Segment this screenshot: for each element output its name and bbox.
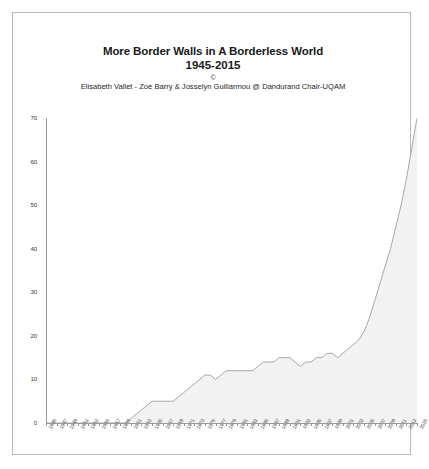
x-axis-tick-mark: [194, 423, 195, 426]
area-series-fill: [46, 118, 417, 423]
x-axis-tick-mark: [300, 423, 301, 426]
x-axis-tick-mark: [216, 423, 217, 426]
x-axis-tick-mark: [67, 423, 68, 426]
x-axis-tick-mark: [258, 423, 259, 426]
x-axis-tick-mark: [353, 423, 354, 426]
x-axis-tick-mark: [269, 423, 270, 426]
x-axis-tick-mark: [364, 423, 365, 426]
x-axis-tick-label: 2015: [418, 418, 429, 430]
area-chart-svg: [46, 118, 417, 423]
x-axis-tick-mark: [46, 423, 47, 426]
x-axis-tick-mark: [322, 423, 323, 426]
chart-subtitle: 1945-2015: [33, 59, 393, 73]
y-axis-tick-label: 50: [15, 201, 37, 208]
x-axis-tick-mark: [226, 423, 227, 426]
x-axis-tick-mark: [375, 423, 376, 426]
y-axis-tick-label: 20: [15, 332, 37, 339]
x-axis-tick-mark: [131, 423, 132, 426]
page-title: More Border Walls in A Borderless World: [33, 45, 393, 59]
y-axis-tick-label: 70: [15, 114, 37, 121]
x-axis-tick-mark: [184, 423, 185, 426]
y-axis-line: [46, 118, 47, 423]
x-axis-tick-mark: [173, 423, 174, 426]
x-axis-tick-mark: [417, 423, 418, 426]
copyright-icon: ©: [33, 73, 393, 82]
x-axis-tick-mark: [396, 423, 397, 426]
x-axis-tick-mark: [406, 423, 407, 426]
chart-frame: More Border Walls in A Borderless World …: [12, 12, 411, 455]
x-axis-tick-mark: [141, 423, 142, 426]
chart-credit: Elisabeth Vallet - Zoé Barry & Josselyn …: [33, 82, 393, 93]
x-axis-line: [46, 423, 417, 424]
x-axis-tick-mark: [99, 423, 100, 426]
x-axis-tick-mark: [163, 423, 164, 426]
plot-area: [46, 118, 417, 423]
y-axis-tick-label: 0: [15, 419, 37, 426]
x-axis-tick-mark: [57, 423, 58, 426]
y-axis-tick-label: 40: [15, 245, 37, 252]
y-axis-tick-label: 10: [15, 375, 37, 382]
x-axis-tick-mark: [247, 423, 248, 426]
x-axis-tick-mark: [385, 423, 386, 426]
x-axis-tick-mark: [88, 423, 89, 426]
x-axis-tick-mark: [279, 423, 280, 426]
y-axis-tick-label: 60: [15, 158, 37, 165]
x-axis-ticks: 1945194719491951195319551957195919611963…: [46, 425, 417, 465]
x-axis-tick-mark: [110, 423, 111, 426]
x-axis-tick-mark: [290, 423, 291, 426]
x-axis-tick-mark: [237, 423, 238, 426]
x-axis-tick-mark: [78, 423, 79, 426]
title-block: More Border Walls in A Borderless World …: [33, 45, 393, 93]
x-axis-tick-mark: [120, 423, 121, 426]
x-axis-tick-mark: [311, 423, 312, 426]
y-axis-tick-label: 30: [15, 288, 37, 295]
x-axis-tick-mark: [152, 423, 153, 426]
x-axis-tick-mark: [343, 423, 344, 426]
x-axis-tick-mark: [205, 423, 206, 426]
x-axis-tick-mark: [332, 423, 333, 426]
